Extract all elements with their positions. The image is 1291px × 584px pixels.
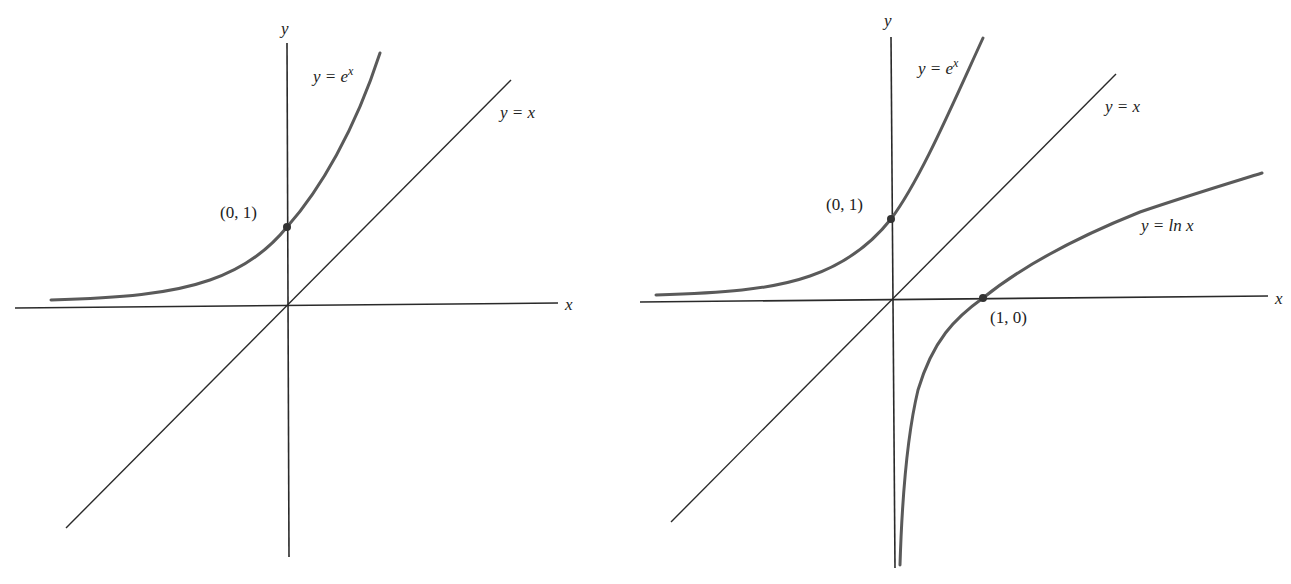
left-y-axis: [287, 43, 289, 557]
right-exp-label-exponent: x: [953, 56, 958, 70]
left-exp-label-base: y = e: [313, 67, 348, 86]
left-point-label-0-1: (0, 1): [220, 204, 257, 221]
left-panel: [15, 43, 558, 557]
right-point-label-0-1: (0, 1): [826, 196, 863, 213]
left-point-0-1: [283, 223, 291, 231]
right-exp-label: y = ex: [918, 57, 958, 77]
right-y-axis: [891, 37, 895, 568]
right-log-curve: [900, 173, 1262, 565]
right-point-label-1-0: (1, 0): [990, 309, 1027, 326]
left-identity-label: y = x: [500, 104, 535, 121]
left-x-axis-label: x: [565, 296, 573, 313]
right-x-axis: [640, 296, 1268, 302]
plot-canvas: [0, 0, 1291, 584]
figure-exp-log-comparison: y x y = ex y = x (0, 1) y x y = ex y = x…: [0, 0, 1291, 584]
left-exp-curve: [51, 53, 380, 300]
right-log-label: y = ln x: [1141, 217, 1194, 234]
left-y-axis-label: y: [281, 20, 289, 37]
right-point-0-1: [887, 215, 895, 223]
right-panel: [640, 37, 1268, 568]
left-exp-label-exponent: x: [348, 64, 353, 78]
right-x-axis-label: x: [1275, 290, 1283, 307]
left-exp-label: y = ex: [313, 65, 353, 85]
right-point-1-0: [979, 294, 987, 302]
right-identity-label: y = x: [1105, 98, 1140, 115]
right-exp-label-base: y = e: [918, 59, 953, 78]
right-y-axis-label: y: [884, 12, 892, 29]
